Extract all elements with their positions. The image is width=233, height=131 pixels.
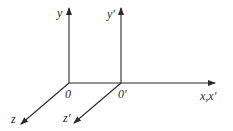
z-prime-label: z' <box>62 111 71 125</box>
origin-prime-label: 0' <box>118 87 127 101</box>
z-label: z <box>10 112 16 126</box>
origin-label: 0 <box>65 87 71 101</box>
z-prime-axis <box>74 83 121 123</box>
coordinate-frames-diagram: y y' 0 0' x,x' z z' <box>0 0 233 131</box>
y-prime-label: y' <box>106 7 115 21</box>
z-axis <box>21 83 69 124</box>
y-label: y <box>56 6 63 20</box>
x-label: x,x' <box>199 89 217 103</box>
